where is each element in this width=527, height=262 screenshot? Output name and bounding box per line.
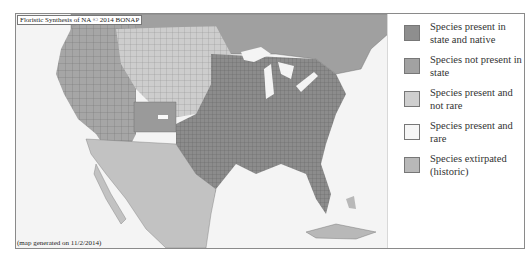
legend-item-present-native: Species present in state and native (404, 20, 525, 46)
legend-label: Species present and rare (430, 119, 525, 145)
legend-swatch (404, 124, 420, 140)
legend: Species present in state and native Spec… (387, 14, 525, 248)
legend-label: Species not present in state (430, 53, 525, 79)
legend-item-not-present: Species not present in state (404, 53, 525, 79)
legend-swatch (404, 91, 420, 107)
legend-item-extirpated: Species extirpated (historic) (404, 152, 525, 178)
legend-item-present-not-rare: Species present and not rare (404, 86, 525, 112)
legend-swatch (404, 58, 420, 74)
legend-item-present-rare: Species present and rare (404, 119, 525, 145)
map-generated-date: (map generated on 11/2/2014) (17, 239, 101, 247)
distribution-map (16, 14, 388, 248)
legend-swatch (404, 25, 420, 41)
map-frame: Floristic Synthesis of NA © 2014 BONAP (… (15, 13, 525, 249)
legend-label: Species extirpated (historic) (430, 152, 525, 178)
map-credit: Floristic Synthesis of NA © 2014 BONAP (17, 15, 142, 25)
legend-label: Species present and not rare (430, 86, 525, 112)
legend-label: Species present in state and native (430, 20, 525, 46)
legend-swatch (404, 157, 420, 173)
